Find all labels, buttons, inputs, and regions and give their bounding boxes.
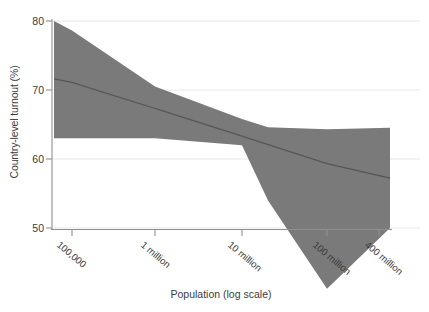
turnout-population-chart <box>0 0 429 312</box>
y-tick-label-80: 80 <box>32 15 44 27</box>
y-tick-label-70: 70 <box>32 84 44 96</box>
y-tick-label-50: 50 <box>32 222 44 234</box>
band-area <box>54 21 390 289</box>
y-axis-title: Country-level turnout (%) <box>8 22 20 222</box>
x-axis-title: Population (log scale) <box>52 288 390 300</box>
y-tick-label-60: 60 <box>32 153 44 165</box>
confidence-band <box>54 21 390 289</box>
